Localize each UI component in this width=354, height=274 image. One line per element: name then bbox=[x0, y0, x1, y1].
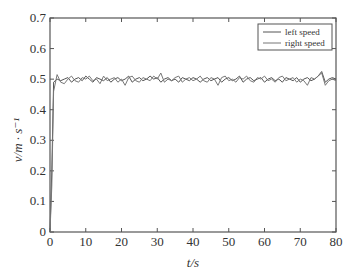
y-tick-label: 0.6 bbox=[30, 41, 47, 56]
y-tick-label: 0 bbox=[40, 224, 47, 239]
legend-label-left: left speed bbox=[285, 27, 320, 37]
y-tick-label: 0.2 bbox=[30, 163, 46, 178]
x-tick-label: 20 bbox=[115, 234, 128, 249]
x-tick-label: 40 bbox=[187, 234, 200, 249]
x-axis-title: t/s bbox=[187, 255, 199, 270]
y-tick-label: 0.7 bbox=[30, 10, 47, 25]
legend-label-right: right speed bbox=[285, 38, 325, 48]
y-tick-label: 0.4 bbox=[30, 102, 47, 117]
x-tick-label: 60 bbox=[258, 234, 271, 249]
series-layer bbox=[50, 72, 336, 233]
y-tick-label: 0.5 bbox=[30, 71, 46, 86]
x-tick-label: 70 bbox=[294, 234, 307, 249]
x-tick-label: 80 bbox=[330, 234, 343, 249]
y-tick-label: 0.3 bbox=[30, 132, 46, 147]
x-tick-label: 50 bbox=[222, 234, 235, 249]
y-axis-title: v/m · s⁻¹ bbox=[10, 118, 25, 162]
legend: left speed right speed bbox=[258, 24, 332, 50]
line-chart: 0102030405060708000.10.20.30.40.50.60.7 … bbox=[0, 0, 354, 274]
series-line-right-speed bbox=[50, 73, 336, 232]
x-tick-label: 30 bbox=[151, 234, 164, 249]
x-tick-label: 10 bbox=[79, 234, 92, 249]
x-tick-label: 0 bbox=[47, 234, 54, 249]
y-tick-label: 0.1 bbox=[30, 193, 46, 208]
series-line-left-speed bbox=[50, 72, 336, 233]
